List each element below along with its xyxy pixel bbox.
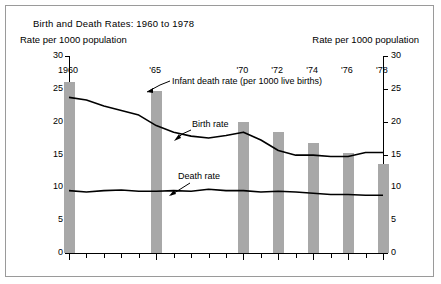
annotation-leader-lines [6, 6, 435, 278]
leader-arrowhead-infant [147, 88, 153, 93]
leader-line-infant [160, 81, 170, 85]
leader-arrowhead-death [169, 190, 176, 196]
chart-frame: Birth and Death Rates: 1960 to 1978 Rate… [5, 5, 434, 277]
